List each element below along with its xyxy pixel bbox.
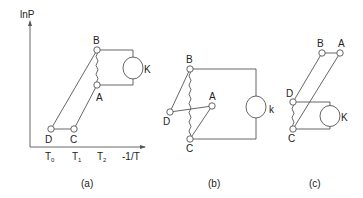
node-b: [94, 47, 100, 53]
line-d-k: [293, 102, 330, 106]
compressor-circle: [320, 106, 340, 127]
tick-t0: T0: [45, 151, 55, 163]
y-axis-label: lnP: [20, 9, 35, 20]
panel-a: lnP B A D C K T0 T1 T2 -1/T (a): [20, 9, 151, 189]
label-c: C: [288, 133, 295, 144]
line-c-a: [74, 85, 97, 129]
label-c: C: [186, 143, 193, 154]
panel-b: B D A C k (b): [163, 54, 275, 189]
label-d: D: [45, 134, 52, 145]
line-a-c: [190, 106, 212, 139]
compressor-circle: [246, 96, 266, 118]
line-b-k: [190, 69, 256, 97]
panel-c: B A D C K (c): [286, 38, 348, 189]
node-d: [290, 99, 296, 105]
line-c-k: [293, 126, 330, 129]
label-b: B: [317, 38, 324, 49]
label-k: K: [341, 112, 348, 123]
x-axis-label: -1/T: [122, 151, 140, 162]
tick-t2: T2: [97, 151, 107, 163]
line-a-k: [97, 78, 133, 85]
node-b: [319, 50, 325, 56]
label-a: A: [338, 38, 345, 49]
cycle-diagram-figure: lnP B A D C K T0 T1 T2 -1/T (a): [0, 0, 363, 198]
node-d: [167, 109, 173, 115]
node-c: [187, 136, 193, 142]
line-d-b: [51, 50, 97, 129]
x-axis-arrow-icon: [140, 145, 146, 149]
node-a: [209, 103, 215, 109]
wavy-line-b-a: [96, 50, 98, 85]
line-d-b: [293, 53, 322, 102]
tick-t1: T1: [72, 151, 82, 163]
wavy-line-b-c: [189, 69, 191, 138]
label-d: D: [163, 116, 170, 127]
node-d: [48, 126, 54, 132]
node-c: [71, 126, 77, 132]
node-c: [290, 126, 296, 132]
label-a: A: [209, 91, 216, 102]
node-a: [337, 50, 343, 56]
label-k: k: [269, 104, 275, 115]
label-b: B: [186, 54, 193, 65]
caption-c: (c): [309, 178, 321, 189]
caption-a: (a): [81, 178, 93, 189]
label-a: A: [96, 92, 103, 103]
line-b-d: [170, 69, 190, 112]
label-k: K: [144, 64, 151, 75]
node-b: [187, 66, 193, 72]
node-a: [94, 82, 100, 88]
line-b-k: [97, 50, 133, 58]
line-c-k: [190, 118, 256, 139]
compressor-circle: [123, 57, 143, 79]
label-d: D: [286, 88, 293, 99]
caption-b: (b): [208, 178, 220, 189]
label-b: B: [93, 35, 100, 46]
label-c: C: [70, 134, 77, 145]
y-axis-arrow-icon: [28, 20, 32, 26]
wavy-line-d-c: [292, 102, 294, 129]
